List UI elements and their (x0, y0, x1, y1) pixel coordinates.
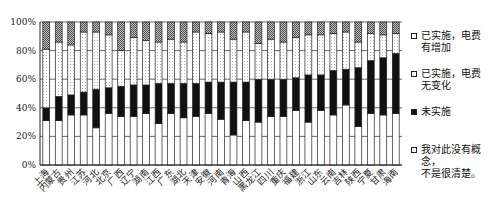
bar-segment (130, 38, 137, 85)
bar-segment (218, 119, 225, 165)
x-axis: 上海内蒙古贵州江苏河北北京广西辽宁湖南江西广东湖北天津安徽河南青海山西黑龙江四川… (30, 165, 402, 194)
bar-segment (205, 114, 212, 165)
bar-segment (118, 22, 125, 51)
bar-segment (380, 22, 387, 35)
bar-segment (93, 89, 100, 128)
bar-segment (143, 114, 150, 165)
bar-segment (55, 96, 62, 120)
bar-segment (367, 22, 374, 33)
bar-segment (380, 115, 387, 165)
bar-segment (105, 88, 112, 114)
bar-segment (43, 22, 50, 49)
legend-item-not-implemented: 未实施 (411, 106, 499, 118)
bar-segment (255, 43, 262, 79)
bar-segment (180, 22, 187, 42)
legend: 已实施，电费 有增加 已实施，电费 无变化 未实施 我对此没有概念， 不是很清楚… (411, 30, 499, 194)
bar-segment (130, 116, 137, 165)
bar-segment (118, 116, 125, 165)
bar-segment (80, 115, 87, 165)
bar-segment (392, 22, 399, 33)
bar-segment (168, 39, 175, 83)
bar-segment (168, 114, 175, 165)
bar-segment (218, 82, 225, 119)
bar-segment (230, 82, 237, 135)
bar-segment (305, 35, 312, 75)
bar-segment (168, 22, 175, 39)
bar-segment (193, 83, 200, 116)
legend-swatch-black (411, 109, 417, 115)
bar-segment (267, 116, 274, 165)
bar-segment (68, 22, 75, 45)
bar-segment (93, 32, 100, 89)
bar-segment (180, 118, 187, 165)
bar-segment (193, 32, 200, 83)
bar-segment (367, 33, 374, 60)
bar-segment (367, 114, 374, 165)
bar-segment (168, 83, 175, 113)
bar-segment (280, 42, 287, 79)
legend-swatch-white (411, 147, 417, 153)
bar-segment (243, 82, 250, 121)
bar-segment (68, 95, 75, 115)
bar-segment (392, 114, 399, 165)
bar-segment (255, 79, 262, 122)
bar-segment (342, 69, 349, 105)
bar-segment (342, 105, 349, 165)
bar-segment (243, 121, 250, 165)
bar-segment (143, 85, 150, 114)
y-tick-label: 60% (16, 74, 36, 84)
legend-item-increased: 已实施，电费 有增加 (411, 30, 499, 54)
bar-segment (292, 38, 299, 78)
bar-segment (80, 92, 87, 115)
bar-segment (330, 71, 337, 115)
bar-segment (392, 33, 399, 53)
bar-segment (43, 121, 50, 165)
bar-segment (68, 115, 75, 165)
bar-segment (105, 114, 112, 165)
bar-segment (330, 115, 337, 165)
bar-segment (355, 126, 362, 165)
bar-segment (118, 51, 125, 87)
bar-segment (193, 116, 200, 165)
bar-segment (118, 86, 125, 116)
bar-segment (80, 22, 87, 32)
bar-segment (93, 128, 100, 165)
legend-label: 无变化 (421, 80, 499, 92)
bar-segment (392, 53, 399, 113)
bar-segment (280, 79, 287, 116)
legend-swatch-hatched (411, 33, 417, 39)
bar-segment (342, 22, 349, 32)
bar-segment (68, 45, 75, 95)
bars (43, 22, 399, 165)
legend-label: 未实施 (421, 106, 499, 118)
bar-segment (292, 111, 299, 165)
bar-segment (55, 42, 62, 96)
bar-segment (305, 122, 312, 165)
bar-segment (355, 42, 362, 68)
bar-segment (105, 35, 112, 88)
bar-segment (205, 82, 212, 113)
bar-segment (267, 79, 274, 116)
bar-segment (143, 41, 150, 85)
legend-swatch-dotted (411, 71, 417, 77)
legend-item-unchanged: 已实施，电费 无变化 (411, 68, 499, 92)
bar-segment (43, 49, 50, 108)
bar-segment (342, 32, 349, 69)
bar-segment (267, 22, 274, 39)
bar-segment (155, 124, 162, 165)
bar-segment (230, 39, 237, 82)
y-tick-label: 20% (16, 131, 36, 141)
bar-segment (255, 122, 262, 165)
bar-segment (105, 22, 112, 35)
bar-segment (180, 42, 187, 83)
bar-segment (380, 58, 387, 115)
bar-segment (155, 42, 162, 83)
bar-segment (155, 22, 162, 42)
bar-segment (55, 22, 62, 42)
bar-segment (380, 35, 387, 58)
legend-item-unclear: 我对此没有概念， 不是很清楚。 (411, 144, 499, 180)
legend-label: 有增加 (421, 42, 499, 54)
bar-segment (330, 33, 337, 70)
bar-segment (205, 22, 212, 33)
bar-segment (367, 61, 374, 114)
